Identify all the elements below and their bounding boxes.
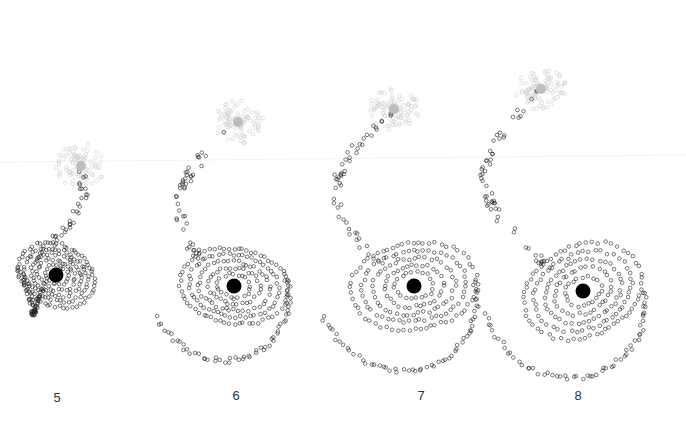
panel-label-8: 8 [574, 388, 581, 403]
panel-6 [155, 99, 292, 364]
simulation-figure [0, 0, 686, 427]
panel-label-6: 6 [232, 388, 239, 403]
panel-label-7: 7 [417, 388, 424, 403]
panel-5 [16, 143, 104, 317]
panel-8 [479, 69, 648, 381]
panel-7 [321, 87, 480, 375]
panel-label-5: 5 [53, 390, 60, 405]
